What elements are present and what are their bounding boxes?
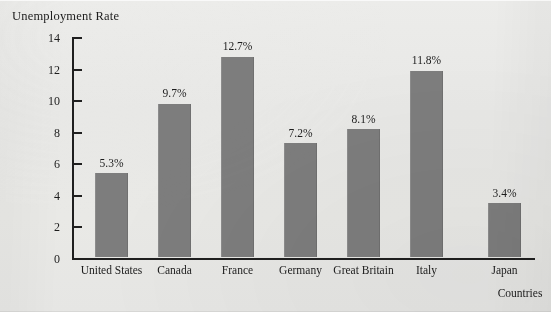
y-tick-label: 6	[54, 158, 60, 170]
y-tick-12: 12	[72, 69, 82, 71]
y-tick-mark	[74, 100, 82, 102]
bar-value-label: 3.4%	[493, 188, 517, 200]
bar-value-label: 11.8%	[412, 55, 441, 67]
bar-value-label: 9.7%	[163, 88, 187, 100]
x-category-france: France	[222, 265, 253, 277]
y-tick-mark	[74, 69, 82, 71]
y-tick-mark	[74, 132, 82, 134]
bar-united-states[interactable]: 5.3%	[95, 173, 128, 257]
y-tick-mark	[74, 163, 82, 165]
y-tick-mark	[74, 37, 82, 39]
y-tick-mark	[74, 195, 82, 197]
bar-canada[interactable]: 9.7%	[158, 104, 191, 257]
x-category-germany: Germany	[279, 265, 322, 277]
y-tick-mark	[74, 226, 82, 228]
y-tick-10: 10	[72, 100, 82, 102]
y-tick-2: 2	[72, 226, 82, 228]
bar-value-label: 8.1%	[352, 114, 376, 126]
bar-value-label: 12.7%	[223, 41, 253, 53]
x-category-great-britain: Great Britain	[333, 265, 393, 277]
y-tick-label: 0	[54, 253, 60, 265]
chart-figure: Unemployment Rate 14 12 10 8 6 4	[0, 0, 551, 312]
x-category-canada: Canada	[157, 265, 191, 277]
plot-area: 14 12 10 8 6 4 2 0	[72, 37, 535, 258]
y-tick-label: 4	[54, 190, 60, 202]
y-tick-4: 4	[72, 195, 82, 197]
y-tick-label: 14	[48, 32, 60, 44]
y-tick-label: 10	[48, 95, 60, 107]
bar-germany[interactable]: 7.2%	[284, 143, 317, 257]
y-tick-8: 8	[72, 132, 82, 134]
bar-value-label: 7.2%	[289, 128, 313, 140]
y-tick-label: 2	[54, 221, 60, 233]
bar-italy[interactable]: 11.8%	[410, 71, 443, 257]
y-tick-6: 6	[72, 163, 82, 165]
chart-title: Unemployment Rate	[12, 9, 119, 24]
x-category-united-states: United States	[81, 265, 143, 277]
x-category-italy: Italy	[416, 265, 437, 277]
x-category-japan: Japan	[491, 265, 517, 277]
y-tick-label: 12	[48, 64, 60, 76]
x-axis-title: Countries	[498, 288, 543, 300]
bar-value-label: 5.3%	[100, 158, 124, 170]
x-axis-line	[72, 258, 535, 260]
bar-france[interactable]: 12.7%	[221, 57, 254, 257]
y-tick-0: 0	[72, 258, 82, 260]
bar-great-britain[interactable]: 8.1%	[347, 129, 380, 257]
y-tick-14: 14	[72, 37, 82, 39]
bar-japan[interactable]: 3.4%	[488, 203, 521, 257]
y-tick-label: 8	[54, 127, 60, 139]
